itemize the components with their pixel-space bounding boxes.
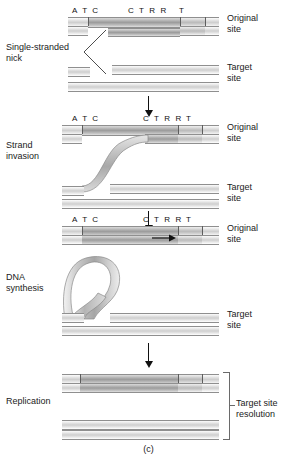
figure-caption: (c)	[0, 444, 297, 454]
target-site-label-panel2: Target site	[227, 182, 252, 203]
target-top-strand-right-panel2	[110, 184, 219, 194]
stage-label-single-stranded-nick: Single-stranded nick	[6, 42, 69, 63]
segment-divider-panel3-c	[202, 226, 203, 235]
resolved-bottom-strand-mid	[178, 383, 202, 393]
transposition-diagram: A T C C T R R T Original site Target sit…	[0, 0, 297, 464]
target-top-strand-right-panel1	[112, 65, 219, 75]
segment-divider-panel1-b	[180, 17, 181, 26]
target-bottom-strand-panel2	[62, 199, 219, 209]
single-stranded-nick-pointer	[84, 30, 126, 78]
target-site-label-panel1: Target site	[227, 62, 252, 83]
sequence-label-left-panel1: A T C	[72, 6, 100, 15]
original-bottom-strand-left-panel3	[62, 235, 82, 245]
original-bottom-strand-right-panel3	[202, 235, 219, 245]
target-site-resolution-bracket	[223, 372, 230, 440]
target-top-strand-left-panel2	[62, 186, 84, 196]
target-bottom-strand-panel3	[62, 326, 219, 336]
resolved-bottom-strand-transposon	[80, 383, 178, 393]
flow-arrow-1	[148, 96, 149, 110]
target-site-label-panel3: Target site	[227, 309, 252, 330]
segment-divider-panel1-a	[88, 17, 89, 26]
target-top-strand-left-panel3	[62, 313, 84, 323]
segment-divider-panel4-c	[202, 374, 203, 383]
original-bottom-strand-mid-panel3	[178, 235, 202, 245]
resolved-lower-duplex-bottom-strand	[62, 430, 219, 440]
stage-label-strand-invasion: Strand invasion	[6, 140, 39, 161]
original-bottom-strand-right-panel1	[205, 26, 219, 36]
synthesis-direction-arrow-icon	[152, 233, 178, 243]
segment-divider-panel4-a	[80, 374, 81, 383]
sequence-label-middle-panel1: C T R R	[128, 6, 168, 15]
resolved-bottom-strand-flank-right	[202, 383, 219, 393]
target-site-resolution-label: Target site resolution	[236, 398, 278, 419]
sequence-label-right-panel1: T	[179, 6, 186, 15]
invading-strand-panel2	[60, 120, 220, 192]
original-site-label-panel1: Original site	[227, 13, 258, 34]
sequence-label-left-panel3: A T C	[72, 215, 100, 224]
resolved-lower-duplex-top-strand	[62, 420, 219, 430]
sequence-label-right-panel3: T	[186, 215, 193, 224]
target-site-resolution-bracket-tick	[230, 405, 235, 406]
original-top-strand-transposon-panel1	[88, 17, 180, 28]
stage-label-dna-synthesis: DNA synthesis	[6, 272, 44, 293]
segment-divider-panel1-c	[205, 17, 206, 26]
segment-divider-panel3-a	[82, 226, 83, 235]
flow-arrow-3	[148, 343, 149, 361]
original-site-label-panel3: Original site	[227, 223, 258, 244]
stage-label-replication: Replication	[6, 396, 51, 407]
target-bottom-strand-panel1	[68, 82, 219, 92]
target-top-strand-right-panel3	[110, 313, 219, 323]
original-bottom-strand-mid-panel1	[180, 26, 205, 36]
segment-divider-panel4-b	[178, 374, 179, 383]
segment-divider-panel3-b	[178, 226, 179, 235]
resolved-bottom-strand-flank-left	[62, 383, 80, 393]
sequence-label-middle-panel3: C T R R	[143, 215, 183, 224]
original-site-label-panel2: Original site	[227, 122, 258, 143]
